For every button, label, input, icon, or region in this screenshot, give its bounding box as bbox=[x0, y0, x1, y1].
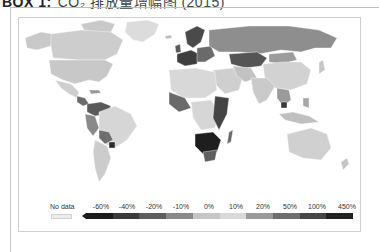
region-kazakhstan bbox=[229, 52, 267, 68]
region-uk bbox=[175, 44, 181, 53]
region-south-africa bbox=[203, 150, 217, 162]
figure-title-subtitle: CO₂ 排放量增幅图 (2015) bbox=[58, 0, 225, 10]
region-madagascar bbox=[227, 130, 233, 144]
region-peru bbox=[85, 114, 99, 136]
region-greenland bbox=[125, 20, 159, 42]
region-myanmar bbox=[281, 102, 287, 108]
region-argentina-chile bbox=[93, 140, 111, 182]
region-western-europe bbox=[177, 50, 199, 66]
region-canada bbox=[51, 30, 123, 60]
world-map bbox=[19, 18, 360, 198]
region-russia bbox=[209, 26, 337, 54]
region-iceland bbox=[165, 35, 172, 39]
region-philippines bbox=[303, 98, 309, 108]
region-eastern-europe bbox=[197, 46, 215, 62]
region-usa bbox=[49, 60, 113, 84]
box-left-rule bbox=[10, 7, 11, 252]
region-southern-africa bbox=[195, 132, 221, 154]
world-map-svg bbox=[19, 18, 360, 198]
region-paraguay bbox=[109, 142, 115, 148]
region-indonesia bbox=[279, 112, 319, 124]
region-caribbean bbox=[89, 90, 101, 94]
region-australia bbox=[287, 128, 331, 160]
figure-title: BOX 1:CO₂ 排放量增幅图 (2015) bbox=[2, 0, 225, 11]
region-new-zealand bbox=[341, 158, 349, 170]
region-north-africa bbox=[169, 68, 217, 98]
region-japan bbox=[319, 60, 325, 74]
region-alaska bbox=[25, 32, 53, 50]
region-scandinavia bbox=[185, 26, 205, 48]
title-rule bbox=[10, 7, 379, 8]
